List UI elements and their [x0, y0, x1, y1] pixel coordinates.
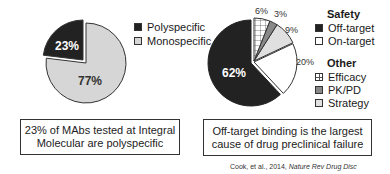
right-pie: [208, 18, 297, 106]
swatch-offtarget: [315, 24, 323, 32]
label-pkpd: 3%: [274, 9, 287, 19]
swatch-efficacy: [315, 73, 323, 81]
swatch-strategy: [315, 99, 323, 107]
legend-efficacy: Efficacy: [315, 71, 366, 83]
legend-strategy: Strategy: [315, 97, 369, 109]
legend-polyspecific: Polyspecific: [134, 21, 205, 33]
label-offtarget: 62%: [222, 66, 246, 80]
swatch-pkpd: [315, 86, 323, 94]
caption-right: Off-target binding is the largest cause …: [203, 119, 372, 156]
swatch-polyspecific: [134, 23, 142, 31]
legend-heading-safety: Safety: [327, 8, 360, 20]
left-pie: [43, 20, 126, 103]
label-ontarget: 20%: [296, 57, 314, 67]
caption-left: 23% of MAbs tested at Integral Molecular…: [20, 119, 180, 155]
label-polyspecific: 23%: [55, 39, 79, 53]
label-strategy: 9%: [285, 25, 298, 35]
swatch-monospecific: [134, 37, 142, 45]
citation: Cook, et al., 2014, Nature Rev Drug Disc: [230, 163, 357, 170]
swatch-ontarget: [315, 37, 323, 45]
legend-heading-other: Other: [327, 57, 356, 69]
legend-offtarget: Off-target: [315, 22, 374, 34]
legend-ontarget: On-target: [315, 35, 374, 47]
legend-pkpd: PK/PD: [315, 84, 361, 96]
legend-monospecific: Monospecific: [134, 35, 211, 47]
label-efficacy: 6%: [255, 6, 268, 16]
label-monospecific: 77%: [78, 74, 102, 88]
